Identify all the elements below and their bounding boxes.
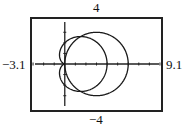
axes xyxy=(33,22,160,106)
graph-screen xyxy=(0,0,187,129)
